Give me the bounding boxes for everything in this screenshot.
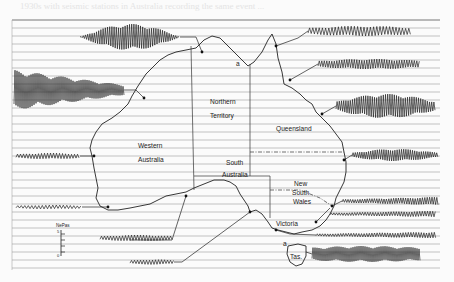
label-nt-2: Territory: [210, 112, 235, 120]
seismogram-northeast-1: [308, 26, 410, 36]
label-wa-2: Australia: [138, 156, 164, 163]
label-vic: Victoria: [276, 220, 298, 227]
seismogram-tasmania: [312, 246, 420, 262]
seismogram-southwest: [16, 205, 81, 209]
marker-north-letter: a: [236, 60, 240, 67]
marker-tas-letter: a: [283, 240, 287, 247]
scale-label: NePas: [56, 223, 70, 228]
seismogram-east-2: [342, 197, 438, 205]
label-nsw-2: South: [292, 189, 310, 196]
seismogram-east-1: [352, 149, 438, 161]
seismogram-victoria: [316, 232, 436, 238]
scale-top: 5: [57, 229, 60, 234]
scale-bottom: 0: [57, 253, 60, 258]
seismogram-south-central-2: [130, 260, 174, 265]
label-sa-2: Australia: [222, 171, 248, 178]
seismograph-map-figure: Northern Territory Queensland Western Au…: [0, 0, 454, 282]
label-wa-1: Western: [138, 142, 163, 149]
label-qld: Queensland: [276, 125, 312, 133]
label-nsw-3: Wales: [293, 198, 312, 205]
seismogram-northeast-2: [318, 59, 419, 69]
label-sa-1: South: [226, 159, 244, 166]
label-nsw-1: New: [294, 180, 307, 187]
seismogram-queensland-coast: [336, 94, 435, 118]
label-nt-1: Northern: [210, 98, 236, 105]
label-tas: Tas.: [290, 253, 302, 260]
